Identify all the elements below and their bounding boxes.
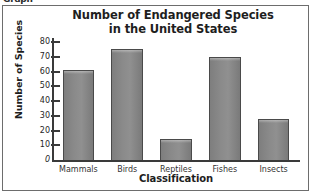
y-tick-label-10: 10 — [40, 140, 50, 150]
x-axis-line — [52, 160, 300, 162]
x-axis-title: Classification — [52, 173, 300, 184]
bar-slot-fishes — [209, 42, 240, 160]
chart-title-line-1: Number of Endangered Species — [39, 9, 307, 23]
y-axis-title: Number of Species — [13, 10, 24, 130]
bar-slot-birds — [111, 42, 142, 160]
y-tick-label-70: 70 — [40, 52, 50, 62]
y-tick-label-80: 80 — [40, 37, 50, 47]
y-tick-label-0: 0 — [45, 155, 50, 165]
bar-slot-insects — [258, 42, 289, 160]
graph-heading: Graph — [3, 0, 33, 4]
bar-slot-reptiles — [160, 42, 191, 160]
chart-frame: Number of Endangered Species in the Unit… — [2, 5, 309, 191]
bar-insects[interactable] — [258, 119, 289, 160]
bars-layer — [54, 42, 298, 160]
bar-birds[interactable] — [111, 49, 142, 160]
chart-title: Number of Endangered Species in the Unit… — [39, 9, 307, 36]
bar-mammals[interactable] — [63, 70, 94, 160]
bar-slot-mammals — [63, 42, 94, 160]
y-tick-label-40: 40 — [40, 96, 50, 106]
bar-reptiles[interactable] — [160, 139, 191, 160]
chart-title-line-2: in the United States — [39, 23, 307, 37]
plot-area: 80706050403020100 MammalsBirdsReptilesFi… — [52, 42, 298, 160]
bar-fishes[interactable] — [209, 57, 240, 160]
y-tick-label-50: 50 — [40, 81, 50, 91]
y-tick-label-60: 60 — [40, 67, 50, 77]
y-tick-label-30: 30 — [40, 111, 50, 121]
y-tick-label-20: 20 — [40, 126, 50, 136]
